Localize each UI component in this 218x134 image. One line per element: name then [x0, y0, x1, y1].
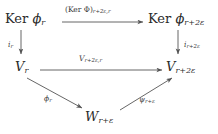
node-v-r-plus-2e-symbol: V: [166, 59, 175, 74]
arrow-right-diagonal: [120, 78, 172, 110]
arrow-label-top-horizontal: (Ker Φ)r+2ε,r: [65, 6, 111, 14]
node-v-r-subscript: r: [24, 66, 28, 75]
arrow-label-middle-horizontal-sub: r+2ε,r: [84, 57, 102, 63]
node-w-r-plus-e: Wr+ε: [85, 110, 113, 123]
arrow-label-right-diagonal-sub: r+ε: [145, 98, 155, 104]
node-v-r-plus-2e-subscript: r+2ε: [175, 66, 195, 75]
arrow-label-left-vertical: ir: [8, 41, 13, 49]
node-ker-phi-r-plus-2e-base: Ker: [148, 11, 171, 26]
node-ker-phi-r: Ker ϕr: [5, 12, 45, 25]
arrow-label-middle-horizontal: Vr+2ε,r: [79, 55, 102, 63]
node-ker-phi-r-symbol: ϕ: [32, 11, 41, 26]
arrow-left-diagonal: [27, 78, 82, 108]
arrow-label-left-diagonal-sub: r: [49, 97, 52, 103]
node-ker-phi-r-subscript: r: [41, 18, 45, 27]
node-ker-phi-r-plus-2e: Ker ϕr+2ε: [148, 12, 204, 25]
node-ker-phi-r-base: Ker: [5, 11, 28, 26]
commutative-diagram: Ker ϕr Ker ϕr+2ε Vr Vr+2ε Wr+ε (Ker Φ)r+…: [0, 0, 218, 134]
arrow-label-right-diagonal-main: ψ: [139, 95, 145, 104]
arrow-label-left-vertical-sub: r: [10, 43, 13, 49]
node-v-r-symbol: V: [15, 59, 24, 74]
arrow-label-right-diagonal: ψr+ε: [139, 96, 155, 104]
node-v-r: Vr: [15, 60, 28, 73]
node-v-r-plus-2e: Vr+2ε: [166, 60, 195, 73]
node-ker-phi-r-plus-2e-symbol: ϕ: [175, 11, 184, 26]
arrow-label-right-vertical-sub: r+2ε: [186, 43, 199, 49]
node-w-r-plus-e-subscript: r+ε: [98, 116, 113, 125]
node-w-r-plus-e-symbol: W: [85, 109, 98, 124]
arrow-label-left-diagonal: ϕr: [44, 95, 52, 103]
arrow-label-right-vertical: ir+2ε: [184, 41, 200, 49]
arrow-label-top-horizontal-main: (Ker Φ): [65, 5, 93, 14]
arrow-label-top-horizontal-sub: r+2ε,r: [93, 8, 111, 14]
node-ker-phi-r-plus-2e-subscript: r+2ε: [184, 18, 204, 27]
